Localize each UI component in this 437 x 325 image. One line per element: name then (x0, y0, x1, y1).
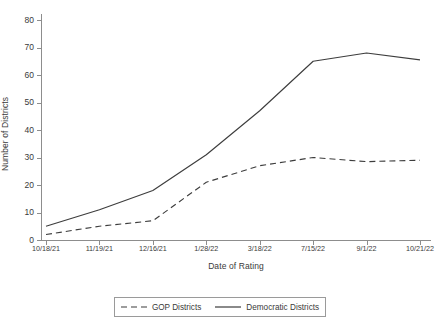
legend: GOP Districts Democratic Districts (114, 297, 326, 317)
series-line-democratic-districts (46, 53, 420, 226)
legend-label-democratic: Democratic Districts (246, 303, 319, 312)
legend-entry-gop: GOP Districts (121, 303, 201, 312)
legend-swatch-solid-icon (215, 303, 241, 311)
series-line-gop-districts (46, 158, 420, 235)
legend-entry-democratic: Democratic Districts (215, 303, 319, 312)
legend-swatch-dashed-icon (121, 303, 147, 311)
x-axis-title: Date of Rating (41, 261, 431, 271)
line-chart: Number of Districts 01020304050607080 10… (0, 0, 437, 325)
legend-label-gop: GOP Districts (152, 303, 201, 312)
plot-area (0, 0, 437, 325)
